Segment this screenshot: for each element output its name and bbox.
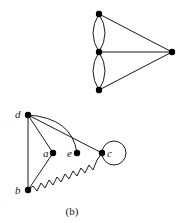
node-t1 [96, 11, 102, 17]
top-graph [93, 11, 175, 93]
label-b: b [15, 184, 21, 196]
figure-caption: (b) [66, 205, 79, 218]
label-d: d [15, 108, 21, 120]
node-t3 [96, 87, 102, 93]
edge-t1-t4 [99, 14, 172, 52]
label-e: e [67, 147, 72, 159]
node-t2 [96, 49, 102, 55]
node-c [99, 150, 105, 156]
bottom-graph: d a e c b [15, 108, 126, 196]
edge-b-c-wavy [28, 153, 102, 191]
edge-d-a [28, 115, 53, 153]
node-d [25, 112, 31, 118]
node-b [25, 187, 31, 193]
label-a: a [43, 147, 49, 159]
edge-t2-t3-right-arc [99, 52, 105, 90]
edge-t3-t4 [99, 52, 172, 90]
edge-t1-t2-left-arc [93, 14, 99, 52]
node-a [50, 150, 56, 156]
graph-figure: d a e c b (b) [0, 0, 185, 223]
node-e [74, 150, 80, 156]
edge-d-c [28, 115, 102, 153]
label-c: c [107, 147, 112, 159]
loop-c [102, 141, 126, 165]
edge-t2-t3-left-arc [93, 52, 99, 90]
node-t4 [169, 49, 175, 55]
edge-t1-t2-right-arc [99, 14, 105, 52]
